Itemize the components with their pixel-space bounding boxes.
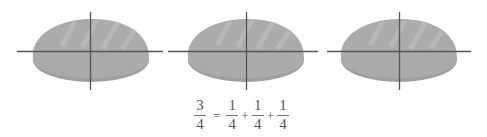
denominator: 4 [254,117,262,132]
numerator: 1 [254,98,262,113]
bread-loaf-2 [156,0,326,95]
numerator: 1 [229,98,237,113]
equals-sign: = [213,108,220,124]
denominator: 4 [196,117,204,132]
bread-quartered-icon [0,0,170,95]
fraction-lhs: 3 4 [194,98,206,132]
fraction-term-1: 1 4 [226,98,238,132]
fraction-term-2: 1 4 [252,98,264,132]
denominator: 4 [279,117,287,132]
denominator: 4 [229,117,237,132]
bread-loaf-1 [0,0,170,95]
plus-sign: + [241,108,248,124]
plus-sign: + [267,108,274,124]
bread-quartered-icon [156,0,326,95]
fraction-equation: 3 4 = 1 4 + 1 4 + 1 4 [194,96,289,134]
numerator: 1 [279,98,287,113]
bread-quartered-icon [309,0,479,95]
fraction-term-3: 1 4 [277,98,289,132]
bread-loaf-3 [309,0,479,95]
numerator: 3 [196,98,204,113]
